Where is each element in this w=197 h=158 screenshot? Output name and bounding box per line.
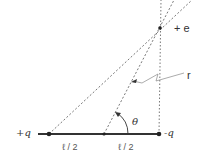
half-length-left-label: ℓ / 2 xyxy=(62,143,77,152)
plus-charge-dot xyxy=(47,132,52,137)
angle-arc xyxy=(117,113,128,134)
line-from-plus-q xyxy=(49,0,192,134)
line-from-minus-q xyxy=(159,0,161,134)
line-r xyxy=(104,0,174,134)
r-arrow-icon xyxy=(131,79,137,83)
distance-label: r xyxy=(187,70,191,81)
half-length-right-label: ℓ / 2 xyxy=(118,143,133,152)
angle-label: θ xyxy=(132,117,138,127)
midpoint-dot xyxy=(102,132,105,135)
test-charge-label: + e xyxy=(174,23,190,34)
minus-charge-dot xyxy=(157,132,162,137)
r-leader xyxy=(133,73,184,83)
minus-charge-label: -q xyxy=(164,128,174,138)
angle-arrow-icon xyxy=(115,112,121,117)
plus-charge-label: +q xyxy=(16,128,31,138)
test-charge-dot xyxy=(158,26,162,30)
